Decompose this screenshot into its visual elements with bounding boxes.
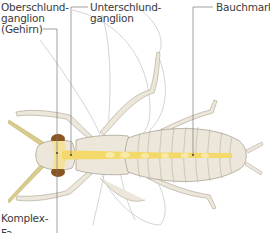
label-cut-off: Fa... [1,228,22,233]
insect-nervous-system-diagram: Oberschlund- ganglion (Gehirn) Unterschl… [0,0,270,233]
label-line: ganglion [90,12,134,24]
label-unterschlundganglion: Unterschlund- ganglion [90,2,161,24]
label-oberschlundganglion: Oberschlund- ganglion (Gehirn) [1,2,69,35]
label-line: (Gehirn) [1,23,43,35]
label-bauchmark: Bauchmark [216,2,270,13]
cerci [245,142,263,175]
label-komplexauge: Komplex- [1,213,48,224]
